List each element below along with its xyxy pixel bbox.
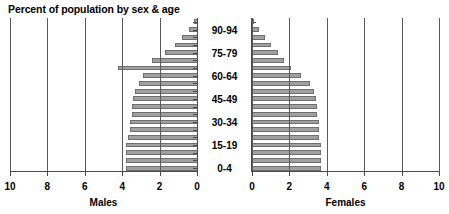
gridline-4 — [327, 18, 328, 172]
bar-female-50-54 — [252, 89, 314, 94]
gridline-6 — [85, 18, 86, 172]
age-label-90-94: 90-94 — [197, 24, 252, 35]
females-axis-caption: Females — [325, 197, 365, 208]
spine-tick-left-5-9 — [193, 160, 197, 161]
tick-label-8: 8 — [45, 181, 51, 192]
spine-tick-left-70-74 — [193, 60, 197, 61]
males-bar-layer — [10, 18, 197, 172]
bar-male-60-64 — [143, 73, 197, 78]
females-bar-layer — [252, 18, 439, 172]
tick-label-8: 8 — [399, 181, 405, 192]
tick-6 — [85, 172, 86, 176]
spine-tick-left-55-59 — [193, 83, 197, 84]
chart-title: Percent of population by sex & age — [8, 3, 180, 15]
bar-male-50-54 — [135, 89, 197, 94]
tick-label-0: 0 — [249, 181, 255, 192]
bar-female-35-39 — [252, 112, 317, 117]
tick-0 — [252, 172, 253, 176]
spine-tick-left-40-44 — [193, 107, 197, 108]
bar-female-25-29 — [252, 127, 319, 132]
gridline-4 — [122, 18, 123, 172]
age-label-0-4: 0-4 — [197, 163, 252, 174]
tick-2 — [160, 172, 161, 176]
bar-male-20-24 — [128, 135, 197, 140]
spine-tick-left-20-24 — [193, 137, 197, 138]
bar-female-30-34 — [252, 120, 319, 125]
gridline-10 — [10, 18, 11, 172]
tick-label-2: 2 — [157, 181, 163, 192]
bar-female-65-69 — [252, 66, 291, 71]
bar-male-30-34 — [130, 120, 197, 125]
bar-female-70-74 — [252, 58, 284, 63]
gridline-10 — [439, 18, 440, 172]
age-label-60-64: 60-64 — [197, 70, 252, 81]
bar-female-85-89 — [252, 35, 265, 40]
gridline-0 — [252, 18, 253, 172]
spine-tick-left-85-89 — [193, 37, 197, 38]
tick-label-0: 0 — [194, 181, 200, 192]
tick-4 — [122, 172, 123, 176]
males-axis-line — [10, 171, 197, 172]
bar-female-40-44 — [252, 104, 317, 109]
bar-male-5-9 — [126, 158, 197, 163]
population-pyramid-chart: Percent of population by sex & age 10864… — [0, 0, 449, 214]
bar-male-35-39 — [132, 112, 197, 117]
age-category-axis: 0-415-1930-3445-4960-6475-7990-94 — [197, 18, 252, 172]
spine-tick-left-50-54 — [193, 91, 197, 92]
females-plot-area — [252, 18, 439, 172]
spine-tick-left-10-14 — [193, 153, 197, 154]
age-label-15-19: 15-19 — [197, 140, 252, 151]
spine-tick-left-95+ — [193, 22, 197, 23]
bar-male-45-49 — [133, 96, 197, 101]
bar-female-55-59 — [252, 81, 310, 86]
spine-tick-left-25-29 — [193, 130, 197, 131]
tick-label-4: 4 — [324, 181, 330, 192]
bar-female-60-64 — [252, 73, 301, 78]
spine-tick-left-80-84 — [193, 45, 197, 46]
bar-female-75-79 — [252, 50, 278, 55]
age-label-75-79: 75-79 — [197, 47, 252, 58]
tick-label-4: 4 — [119, 181, 125, 192]
females-panel: 0246810 Females — [252, 18, 439, 172]
gridline-6 — [364, 18, 365, 172]
bar-male-40-44 — [132, 104, 197, 109]
tick-10 — [439, 172, 440, 176]
males-axis-caption: Males — [90, 197, 118, 208]
tick-label-6: 6 — [361, 181, 367, 192]
bar-female-20-24 — [252, 135, 319, 140]
bar-female-10-14 — [252, 150, 321, 155]
females-axis-line — [252, 171, 439, 172]
males-plot-area — [10, 18, 197, 172]
bar-male-0-4 — [126, 166, 197, 171]
gridline-2 — [289, 18, 290, 172]
bar-male-65-69 — [118, 66, 197, 71]
males-panel: 1086420 Males — [10, 18, 197, 172]
tick-label-10: 10 — [433, 181, 444, 192]
age-label-30-34: 30-34 — [197, 116, 252, 127]
age-label-45-49: 45-49 — [197, 93, 252, 104]
bar-male-15-19 — [126, 143, 197, 148]
tick-label-2: 2 — [287, 181, 293, 192]
bar-female-15-19 — [252, 143, 321, 148]
tick-6 — [364, 172, 365, 176]
bar-female-5-9 — [252, 158, 321, 163]
tick-label-10: 10 — [4, 181, 15, 192]
bar-male-10-14 — [126, 150, 197, 155]
bar-female-80-84 — [252, 43, 271, 48]
bar-female-45-49 — [252, 96, 316, 101]
gridline-2 — [160, 18, 161, 172]
bar-male-55-59 — [139, 81, 197, 86]
gridline-8 — [402, 18, 403, 172]
tick-4 — [327, 172, 328, 176]
tick-2 — [289, 172, 290, 176]
tick-8 — [47, 172, 48, 176]
gridline-8 — [47, 18, 48, 172]
tick-8 — [402, 172, 403, 176]
tick-label-6: 6 — [82, 181, 88, 192]
spine-tick-left-35-39 — [193, 114, 197, 115]
spine-tick-left-65-69 — [193, 68, 197, 69]
bar-female-0-4 — [252, 166, 321, 171]
tick-10 — [10, 172, 11, 176]
bar-male-25-29 — [130, 127, 197, 132]
